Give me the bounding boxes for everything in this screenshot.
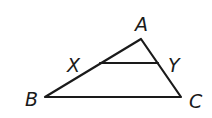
triangle-diagram: A X Y B C: [0, 0, 212, 118]
label-b: B: [25, 88, 38, 110]
label-c: C: [189, 90, 203, 112]
triangle-abc: [45, 39, 181, 97]
label-a: A: [133, 13, 148, 35]
label-y: Y: [168, 54, 181, 76]
label-x: X: [66, 54, 81, 76]
